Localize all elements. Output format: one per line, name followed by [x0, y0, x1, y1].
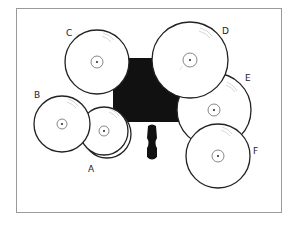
cymbal-f: [186, 124, 250, 188]
label-f: F: [253, 147, 258, 156]
cymbal-c: [65, 30, 129, 94]
pedal-icon: [147, 125, 157, 160]
drum-kit-diagram: [0, 0, 290, 225]
cymbal-b: [34, 96, 90, 152]
label-e: E: [245, 74, 251, 83]
label-a: A: [88, 165, 94, 174]
label-c: C: [66, 29, 72, 38]
label-d: D: [222, 27, 229, 36]
label-b: B: [34, 91, 40, 100]
cymbal-d: [152, 22, 228, 98]
